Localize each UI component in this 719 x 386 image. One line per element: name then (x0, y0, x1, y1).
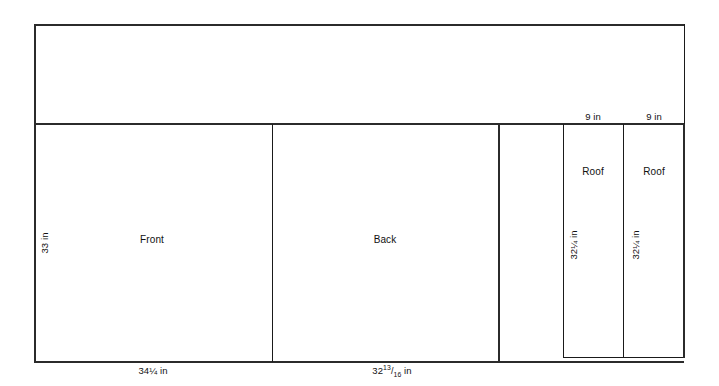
roof-left-width-dimension: 9 in (585, 112, 601, 122)
sheet-right-edge-upper (684, 24, 685, 125)
back-width-numerator: 13 (383, 364, 391, 371)
roof-left-height-unit: in (568, 230, 579, 238)
roof-right-width-dimension: 9 in (646, 112, 662, 122)
roof-right-height-dimension: 32¼ in (631, 230, 641, 259)
back-panel-right-edge (498, 124, 500, 362)
roof-panels-bottom-edge (563, 357, 684, 358)
roof-right-panel-label: Roof (643, 167, 665, 177)
cut-layout-diagram: Front 33 in 34¼ in Back 3213/16 in Roof … (0, 0, 719, 386)
front-panel-height-dimension: 33 in (40, 232, 50, 253)
roof-right-panel-right-edge (683, 124, 685, 358)
front-panel-right-edge (272, 124, 273, 362)
roof-panels-divider (623, 124, 624, 358)
back-panel-label: Back (374, 235, 397, 245)
front-panel-left-edge (34, 124, 36, 362)
front-width-whole: 34 (138, 365, 149, 376)
back-width-denominator: 16 (394, 371, 402, 378)
roof-left-height-dimension: 32¼ in (569, 230, 579, 259)
roof-left-panel-left-edge (563, 124, 564, 358)
back-width-unit: in (404, 365, 412, 376)
back-panel-width-dimension: 3213/16 in (372, 366, 411, 376)
roof-right-height-unit: in (630, 230, 641, 238)
sheet-top-edge (34, 24, 684, 26)
sheet-mid-rule (34, 123, 684, 125)
front-width-unit: in (160, 365, 168, 376)
sheet-left-edge-upper (34, 24, 36, 125)
back-width-fraction: 13/16 (383, 366, 401, 376)
back-width-whole: 32 (372, 365, 383, 376)
roof-left-height-fraction: ¼ (568, 241, 579, 249)
roof-right-height-fraction: ¼ (630, 241, 641, 249)
roof-left-height-whole: 32 (568, 249, 579, 260)
front-width-fraction: ¼ (149, 365, 157, 376)
sheet-bottom-edge (34, 361, 684, 363)
front-panel-width-dimension: 34¼ in (138, 366, 167, 376)
front-panel-label: Front (140, 235, 164, 245)
roof-left-panel-label: Roof (582, 167, 604, 177)
roof-right-height-whole: 32 (630, 249, 641, 260)
